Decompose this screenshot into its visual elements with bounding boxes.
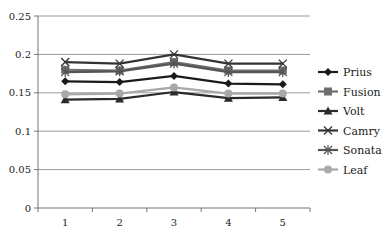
y-tick-label: 0.05 xyxy=(9,164,31,175)
x-axis: 12345 xyxy=(38,208,310,228)
circle-marker-icon xyxy=(61,90,69,98)
x-tick-label: 2 xyxy=(116,217,122,228)
y-tick-label: 0.2 xyxy=(15,49,31,60)
x-tick-label: 4 xyxy=(225,217,231,228)
legend-label: Fusion xyxy=(343,86,381,99)
legend-item-volt: Volt xyxy=(318,105,365,118)
x-tick-label: 3 xyxy=(171,217,177,228)
diamond-marker-icon xyxy=(224,80,232,88)
circle-marker-icon xyxy=(224,90,232,98)
legend-item-fusion: Fusion xyxy=(318,86,381,99)
x-tick-label: 1 xyxy=(62,217,68,228)
y-tick-label: 0 xyxy=(25,203,31,214)
legend-item-camry: Camry xyxy=(318,125,381,138)
y-axis: 00.050.10.150.20.25 xyxy=(9,11,38,214)
legend-item-sonata: Sonata xyxy=(318,144,382,157)
legend-label: Volt xyxy=(342,105,365,118)
diamond-marker-icon xyxy=(116,78,124,86)
diamond-marker-icon xyxy=(170,72,178,80)
diamond-marker-icon xyxy=(61,77,69,85)
legend-label: Prius xyxy=(343,66,372,79)
circle-marker-icon xyxy=(324,166,332,174)
legend: PriusFusionVoltCamrySonataLeaf xyxy=(318,66,382,177)
circle-marker-icon xyxy=(279,90,287,98)
circle-marker-icon xyxy=(116,90,124,98)
legend-item-prius: Prius xyxy=(318,66,372,79)
line-chart: 00.050.10.150.20.25 12345 PriusFusionVol… xyxy=(0,0,388,239)
diamond-marker-icon xyxy=(324,68,332,76)
series-leaf xyxy=(61,83,287,98)
y-tick-label: 0.1 xyxy=(15,126,31,137)
y-tick-label: 0.25 xyxy=(9,11,31,22)
circle-marker-icon xyxy=(170,83,178,91)
diamond-marker-icon xyxy=(279,80,287,88)
x-tick-label: 5 xyxy=(280,217,286,228)
legend-label: Sonata xyxy=(343,144,382,157)
square-marker-icon xyxy=(324,88,332,96)
y-tick-label: 0.15 xyxy=(9,87,31,98)
plot-series xyxy=(61,50,288,103)
legend-item-leaf: Leaf xyxy=(318,164,368,177)
legend-label: Camry xyxy=(343,125,381,138)
legend-label: Leaf xyxy=(343,164,368,177)
